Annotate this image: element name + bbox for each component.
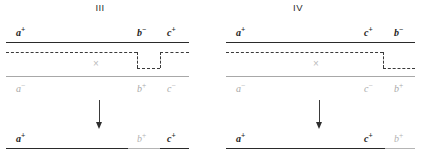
panel-IV-title: IV bbox=[198, 2, 398, 14]
panel-III-result-label-c: c+ bbox=[167, 134, 176, 144]
panel-III-dashed-rise bbox=[160, 52, 161, 68]
panel-IV-dashed-right bbox=[383, 68, 415, 69]
panel-IV-bottom-strand bbox=[226, 76, 415, 77]
panel-IV-arrow-shaft bbox=[319, 100, 320, 124]
panel-IV-result-label-a: a+ bbox=[236, 134, 245, 144]
panel-IV-bottom-label-c: c− bbox=[364, 84, 373, 94]
panel-III-top-label-b: b− bbox=[137, 28, 146, 38]
panel-III-crossover-icon: × bbox=[93, 59, 99, 69]
panel-IV-crossover-icon: × bbox=[313, 59, 319, 69]
panel-IV-result-label-b: b+ bbox=[394, 134, 403, 144]
panel-III-result-label-b: b+ bbox=[137, 134, 146, 144]
panel-III-result-strand-left bbox=[6, 148, 128, 149]
panel-IV-top-strand bbox=[226, 42, 415, 43]
panel-III-top-strand bbox=[6, 42, 189, 43]
panel-III-dashed-bottom bbox=[137, 68, 160, 69]
panel-IV-top-label-b: b− bbox=[394, 28, 403, 38]
panel-III-arrow-shaft bbox=[99, 100, 100, 124]
panel-III-dashed-drop bbox=[137, 52, 138, 68]
panel-IV-result-strand-inserted bbox=[385, 148, 415, 149]
panel-III-title: III bbox=[0, 2, 200, 14]
panel-IV-dashed-left bbox=[226, 52, 383, 53]
panel-III-top-label-a: a+ bbox=[16, 28, 25, 38]
panel-III-bottom-label-c: c− bbox=[167, 84, 176, 94]
panel-III-result-label-a: a+ bbox=[16, 134, 25, 144]
panel-IV-bottom-label-a: a− bbox=[236, 84, 245, 94]
panel-IV-dashed-drop bbox=[383, 52, 384, 68]
panel-III-arrow-head bbox=[96, 122, 102, 129]
panel-IV-top-label-a: a+ bbox=[236, 28, 245, 38]
panel-IV-arrow-head bbox=[316, 122, 322, 129]
panel-III-dashed-right bbox=[160, 52, 189, 53]
panel-IV-bottom-label-b: b+ bbox=[394, 84, 403, 94]
panel-IV-result-strand-left bbox=[226, 148, 385, 149]
recombination-figure: III a+ b− c+ × a− b+ c− bbox=[0, 0, 421, 163]
panel-III-result-strand-right bbox=[160, 148, 189, 149]
panel-III-bottom-label-a: a− bbox=[16, 84, 25, 94]
panel-IV-result-label-c: c+ bbox=[364, 134, 373, 144]
panel-IV-top-label-c: c+ bbox=[364, 28, 373, 38]
panel-III-top-label-c: c+ bbox=[167, 28, 176, 38]
panel-III-result-strand-inserted bbox=[128, 148, 160, 149]
panel-III-bottom-label-b: b+ bbox=[137, 84, 146, 94]
panel-IV: IV a+ c+ b− × a− c− b+ bbox=[220, 0, 420, 163]
panel-III-dashed-left bbox=[6, 52, 137, 53]
panel-III-bottom-strand bbox=[6, 76, 189, 77]
panel-III: III a+ b− c+ × a− b+ c− bbox=[0, 0, 200, 163]
